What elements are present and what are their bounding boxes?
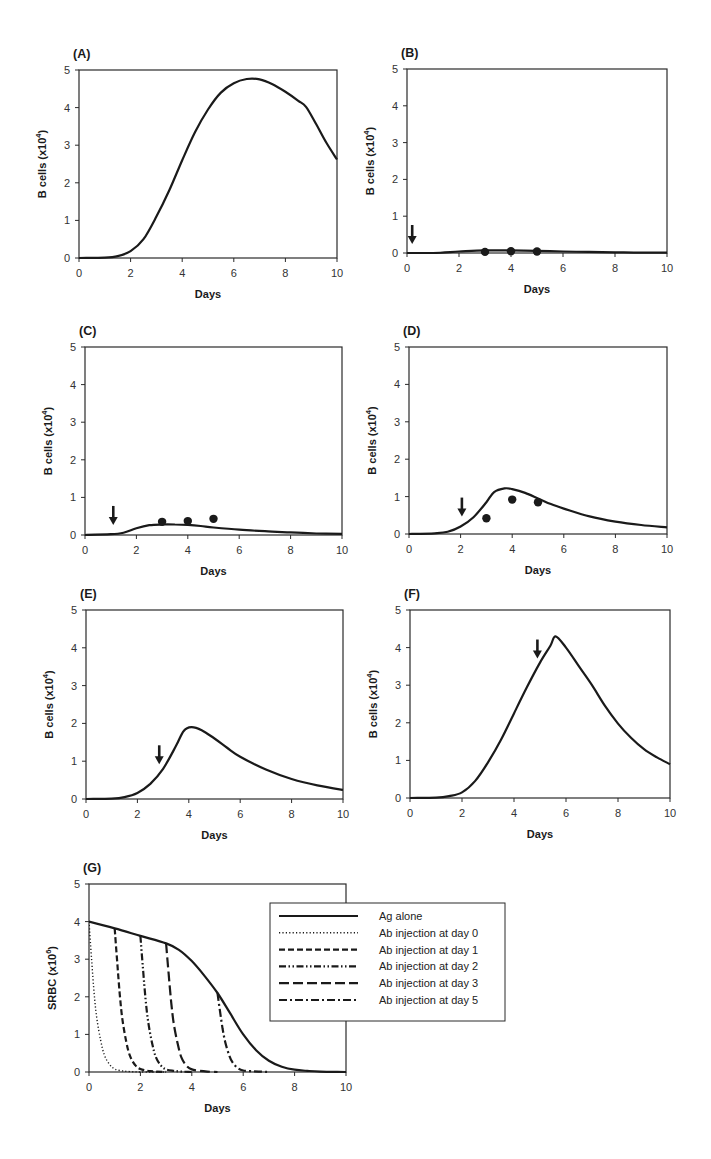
y-tick-label: 1 bbox=[395, 754, 401, 766]
x-tick-label: 8 bbox=[612, 262, 618, 274]
x-tick-label: 2 bbox=[458, 543, 464, 555]
legend-label: Ab injection at day 0 bbox=[379, 927, 478, 939]
y-tick-label: 3 bbox=[70, 416, 76, 428]
data-point bbox=[533, 247, 541, 255]
legend-label: Ab injection at day 1 bbox=[379, 944, 478, 956]
y-tick-label: 2 bbox=[394, 453, 400, 465]
injection-arrow-icon bbox=[155, 745, 164, 764]
x-tick-label: 8 bbox=[289, 808, 295, 820]
injection-arrow-icon bbox=[109, 506, 118, 525]
y-tick-label: 3 bbox=[395, 679, 401, 691]
y-tick-label: 1 bbox=[74, 1028, 80, 1040]
y-tick-label: 5 bbox=[394, 341, 400, 353]
legend-label: Ab injection at day 3 bbox=[379, 977, 478, 989]
y-tick-label: 1 bbox=[64, 214, 70, 226]
x-tick-label: 6 bbox=[560, 262, 566, 274]
x-tick-label: 8 bbox=[612, 543, 618, 555]
y-tick-label: 3 bbox=[394, 416, 400, 428]
y-tick-label: 2 bbox=[70, 454, 76, 466]
x-tick-label: 0 bbox=[404, 262, 410, 274]
y-tick-label: 2 bbox=[74, 991, 80, 1003]
x-tick-label: 0 bbox=[86, 1081, 92, 1093]
y-tick-label: 5 bbox=[70, 341, 76, 353]
legend-label: Ab injection at day 2 bbox=[379, 960, 478, 972]
injection-arrow-icon bbox=[457, 498, 466, 517]
x-tick-label: 4 bbox=[508, 262, 514, 274]
x-tick-label: 10 bbox=[336, 544, 348, 556]
y-tick-label: 0 bbox=[392, 247, 398, 259]
x-tick-label: 10 bbox=[337, 808, 349, 820]
y-axis-title: B cells (x104) bbox=[40, 406, 54, 475]
y-tick-label: 4 bbox=[74, 916, 80, 928]
y-tick-label: 3 bbox=[64, 139, 70, 151]
y-tick-label: 4 bbox=[394, 378, 400, 390]
plot-frame bbox=[410, 610, 670, 798]
x-tick-label: 0 bbox=[82, 544, 88, 556]
x-tick-label: 2 bbox=[128, 267, 134, 279]
y-axis-title: B cells (x104) bbox=[34, 129, 48, 198]
series-line-solid bbox=[85, 524, 342, 535]
x-tick-label: 6 bbox=[237, 808, 243, 820]
multi-panel-figure: 0123450246810DaysB cells (x104)(A)012345… bbox=[0, 0, 711, 1159]
x-axis-title: Days bbox=[200, 565, 226, 577]
x-tick-label: 4 bbox=[189, 1081, 195, 1093]
injection-arrow-icon bbox=[533, 640, 542, 659]
x-tick-label: 6 bbox=[231, 267, 237, 279]
legend-label: Ag alone bbox=[379, 910, 422, 922]
x-tick-label: 10 bbox=[661, 543, 673, 555]
y-tick-label: 5 bbox=[395, 604, 401, 616]
plot-frame bbox=[85, 347, 342, 535]
data-point bbox=[534, 498, 542, 506]
x-tick-label: 0 bbox=[83, 808, 89, 820]
y-tick-label: 3 bbox=[74, 953, 80, 965]
figure-canvas: 0123450246810DaysB cells (x104)(A)012345… bbox=[0, 0, 711, 1159]
x-axis-title: Days bbox=[201, 829, 227, 841]
y-tick-label: 5 bbox=[71, 604, 77, 616]
plot-frame bbox=[407, 69, 667, 253]
panel-g: 0123450246810DaysSRBC (x106)(G)Ag aloneA… bbox=[44, 861, 505, 1114]
x-tick-label: 2 bbox=[137, 1081, 143, 1093]
legend: Ag aloneAb injection at day 0Ab injectio… bbox=[270, 903, 505, 1021]
data-point bbox=[209, 515, 217, 523]
series-line-solid bbox=[409, 488, 667, 534]
y-axis-title: B cells (x104) bbox=[364, 406, 378, 475]
series-line-solid bbox=[86, 727, 343, 799]
data-point bbox=[158, 518, 166, 526]
panel-label: (E) bbox=[80, 587, 97, 601]
y-tick-label: 1 bbox=[394, 491, 400, 503]
x-tick-label: 10 bbox=[340, 1081, 352, 1093]
plot-frame bbox=[86, 610, 343, 799]
y-tick-label: 3 bbox=[392, 137, 398, 149]
x-tick-label: 2 bbox=[133, 544, 139, 556]
panel-label: (A) bbox=[73, 47, 90, 61]
y-tick-label: 4 bbox=[64, 102, 70, 114]
x-axis-title: Days bbox=[525, 564, 551, 576]
data-point bbox=[507, 247, 515, 255]
y-tick-label: 2 bbox=[64, 177, 70, 189]
y-tick-label: 0 bbox=[395, 792, 401, 804]
panel-label: (D) bbox=[403, 324, 420, 338]
y-tick-label: 3 bbox=[71, 680, 77, 692]
x-tick-label: 10 bbox=[331, 267, 343, 279]
x-tick-label: 4 bbox=[186, 808, 192, 820]
x-tick-label: 8 bbox=[288, 544, 294, 556]
x-axis-title: Days bbox=[195, 288, 221, 300]
y-tick-label: 5 bbox=[64, 64, 70, 76]
y-axis-title: SRBC (x106) bbox=[44, 946, 58, 1010]
x-tick-label: 4 bbox=[509, 543, 515, 555]
plot-frame bbox=[79, 70, 337, 258]
x-tick-label: 6 bbox=[561, 543, 567, 555]
series-line-solid bbox=[79, 79, 337, 258]
y-tick-label: 5 bbox=[74, 878, 80, 890]
panel-f: 0123450246810DaysB cells (x104)(F) bbox=[365, 587, 676, 840]
series-line-solid bbox=[410, 636, 670, 798]
x-axis-title: Days bbox=[204, 1102, 230, 1114]
x-tick-label: 4 bbox=[179, 267, 185, 279]
y-tick-label: 0 bbox=[64, 252, 70, 264]
injection-arrow-icon bbox=[408, 225, 417, 244]
x-tick-label: 4 bbox=[185, 544, 191, 556]
panel-b: 0123450246810DaysB cells (x104)(B) bbox=[362, 46, 673, 295]
x-tick-label: 0 bbox=[406, 543, 412, 555]
x-tick-label: 8 bbox=[615, 807, 621, 819]
x-axis-title: Days bbox=[527, 828, 553, 840]
